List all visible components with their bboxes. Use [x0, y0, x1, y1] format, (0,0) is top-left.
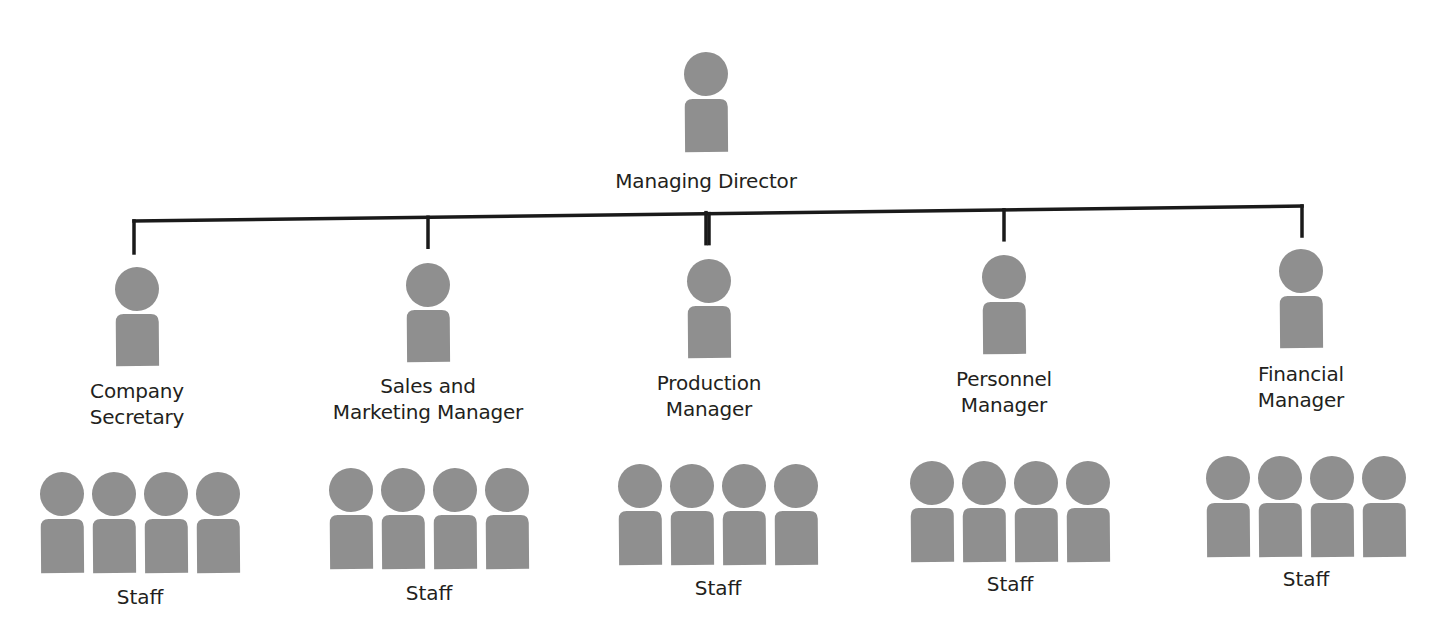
org-chart-graphics — [0, 0, 1450, 636]
manager-person-icon — [1279, 249, 1324, 348]
staff-label-company-secretary: Staff — [117, 585, 164, 609]
staff-person-icon — [196, 472, 241, 573]
manager-label-production: Production Manager — [657, 370, 761, 422]
person-body-icon — [116, 314, 159, 366]
manager-label-line: Financial — [1258, 361, 1344, 387]
staff-person-icon — [92, 472, 137, 573]
person-body-icon — [775, 511, 818, 565]
staff-person-icon — [1066, 461, 1111, 562]
manager-label-line: Company — [90, 378, 184, 404]
manager-person-icon — [406, 263, 451, 362]
staff-person-icon — [962, 461, 1007, 562]
person-body-icon — [197, 519, 240, 573]
person-head-icon — [1279, 249, 1323, 293]
person-head-icon — [687, 259, 731, 303]
manager-label-line: Production — [657, 370, 761, 396]
managing-director-label: Managing Director — [615, 168, 796, 194]
person-head-icon — [1014, 461, 1058, 505]
manager-label-personnel: Personnel Manager — [956, 366, 1052, 418]
person-body-icon — [1015, 508, 1058, 562]
person-head-icon — [722, 464, 766, 508]
person-body-icon — [486, 515, 529, 569]
staff-person-icon — [1206, 456, 1251, 557]
person-body-icon — [911, 508, 954, 562]
staff-person-icon — [40, 472, 85, 573]
person-body-icon — [434, 515, 477, 569]
manager-label-sales-marketing: Sales and Marketing Manager — [333, 373, 523, 425]
person-head-icon — [774, 464, 818, 508]
person-body-icon — [1259, 503, 1302, 557]
staff-person-icon — [670, 464, 715, 565]
person-head-icon — [485, 468, 529, 512]
person-head-icon — [670, 464, 714, 508]
horizontal-connector-line — [134, 206, 1302, 221]
staff-label-sales-marketing: Staff — [406, 581, 453, 605]
person-body-icon — [1311, 503, 1354, 557]
person-body-icon — [41, 519, 84, 573]
person-head-icon — [1310, 456, 1354, 500]
person-body-icon — [145, 519, 188, 573]
person-body-icon — [619, 511, 662, 565]
person-body-icon — [983, 302, 1026, 354]
person-body-icon — [407, 310, 450, 362]
staff-person-icon — [144, 472, 189, 573]
staff-person-icon — [910, 461, 955, 562]
person-head-icon — [982, 255, 1026, 299]
person-body-icon — [963, 508, 1006, 562]
manager-label-financial: Financial Manager — [1258, 361, 1344, 413]
org-chart: Managing Director Company Secretary Sale… — [0, 0, 1450, 636]
person-head-icon — [329, 468, 373, 512]
manager-person-icon — [687, 259, 732, 358]
manager-person-icon — [115, 267, 160, 366]
staff-label-production: Staff — [695, 576, 742, 600]
person-body-icon — [382, 515, 425, 569]
person-head-icon — [406, 263, 450, 307]
person-head-icon — [144, 472, 188, 516]
staff-label-personnel: Staff — [987, 572, 1034, 596]
person-body-icon — [93, 519, 136, 573]
manager-label-line: Secretary — [90, 404, 184, 430]
person-body-icon — [330, 515, 373, 569]
person-body-icon — [1207, 503, 1250, 557]
person-head-icon — [1206, 456, 1250, 500]
person-body-icon — [1067, 508, 1110, 562]
manager-label-line: Manager — [657, 396, 761, 422]
manager-label-company-secretary: Company Secretary — [90, 378, 184, 430]
person-head-icon — [196, 472, 240, 516]
person-body-icon — [1280, 296, 1323, 348]
staff-person-icon — [329, 468, 374, 569]
managing-director-person-icon — [684, 52, 729, 152]
staff-label-financial: Staff — [1283, 567, 1330, 591]
person-body-icon — [688, 306, 731, 358]
person-head-icon — [1258, 456, 1302, 500]
staff-person-icon — [618, 464, 663, 565]
person-body-icon — [1363, 503, 1406, 557]
staff-person-icon — [774, 464, 819, 565]
person-head-icon — [1066, 461, 1110, 505]
person-head-icon — [40, 472, 84, 516]
staff-person-icon — [381, 468, 426, 569]
manager-label-line: Marketing Manager — [333, 399, 523, 425]
manager-person-icon — [982, 255, 1027, 354]
person-body-icon — [723, 511, 766, 565]
person-head-icon — [92, 472, 136, 516]
staff-person-icon — [722, 464, 767, 565]
person-body-icon — [685, 99, 728, 152]
staff-person-icon — [433, 468, 478, 569]
person-head-icon — [115, 267, 159, 311]
person-head-icon — [381, 468, 425, 512]
manager-label-line: Manager — [1258, 387, 1344, 413]
person-head-icon — [962, 461, 1006, 505]
manager-label-line: Manager — [956, 392, 1052, 418]
person-head-icon — [1362, 456, 1406, 500]
person-head-icon — [910, 461, 954, 505]
staff-person-icon — [1258, 456, 1303, 557]
staff-person-icon — [1362, 456, 1407, 557]
staff-person-icon — [485, 468, 530, 569]
person-head-icon — [618, 464, 662, 508]
person-head-icon — [684, 52, 728, 96]
person-body-icon — [671, 511, 714, 565]
staff-person-icon — [1310, 456, 1355, 557]
staff-person-icon — [1014, 461, 1059, 562]
manager-label-line: Personnel — [956, 366, 1052, 392]
